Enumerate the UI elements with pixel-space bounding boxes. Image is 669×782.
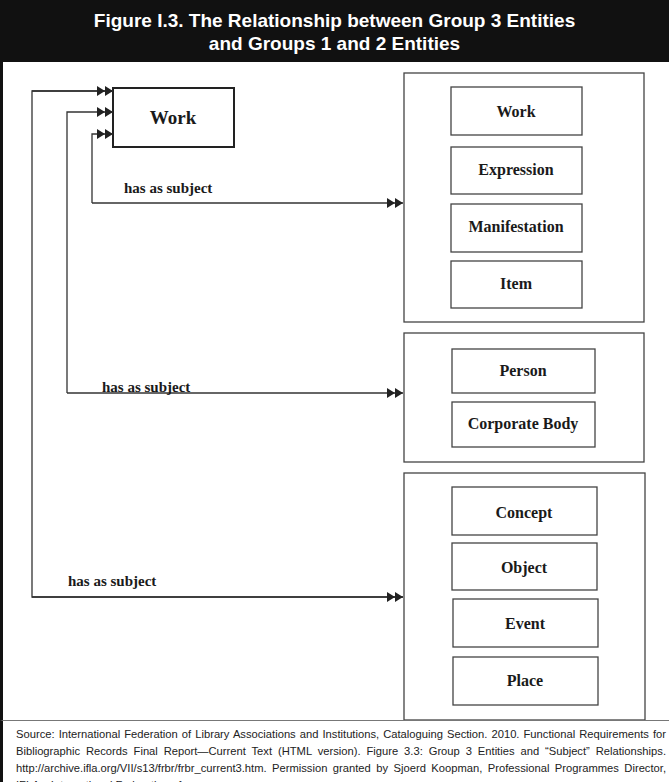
figure-title: Figure I.3. The Relationship between Gro… [0,0,669,62]
group2-container: Person Corporate Body [404,333,644,462]
diagram-frame: Work has as subject has as subject has a… [0,62,669,720]
entity-concept: Concept [496,504,554,522]
entity-corporate-body: Corporate Body [468,415,579,433]
entity-manifestation: Manifestation [468,218,563,235]
source-caption: Source: International Federation of Libr… [0,720,669,782]
entity-work: Work [496,103,535,120]
entity-object: Object [501,559,548,577]
connector-group2 [67,112,113,393]
entity-expression: Expression [478,161,553,179]
connector-group1 [92,134,113,203]
relationship-label-group3: has as subject [68,573,156,589]
figure-title-line2: and Groups 1 and 2 Entities [0,32,669,55]
frbr-diagram: Work has as subject has as subject has a… [3,62,669,720]
entity-event: Event [505,615,546,632]
entity-person: Person [499,362,546,379]
figure-title-line1: Figure I.3. The Relationship between Gro… [0,9,669,32]
entity-place: Place [507,672,543,689]
source-text: Source: International Federation of Libr… [16,728,666,782]
relationship-label-group2: has as subject [102,379,190,395]
group3-container: Concept Object Event Place [404,473,645,720]
group1-container: Work Expression Manifestation Item [404,73,644,322]
connector-group3 [32,91,403,597]
source-work-label: Work [150,107,197,128]
relationship-label-group1: has as subject [124,180,212,196]
source-work-entity: Work [113,88,234,147]
entity-item: Item [500,275,533,292]
